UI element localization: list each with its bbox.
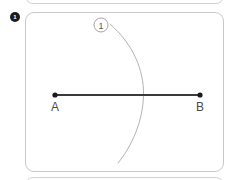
compass-arc-1 [110, 24, 144, 163]
geometry-drawing: A B 1 [0, 0, 236, 180]
point-b-label: B [196, 100, 204, 114]
step-number-badge: 1 [10, 12, 20, 22]
point-a-dot [52, 92, 57, 97]
callout-label: 1 [98, 21, 103, 31]
point-b-dot [197, 92, 202, 97]
point-a-label: A [51, 100, 59, 114]
construction-figure-stage: 1 A B 1 [0, 0, 236, 180]
